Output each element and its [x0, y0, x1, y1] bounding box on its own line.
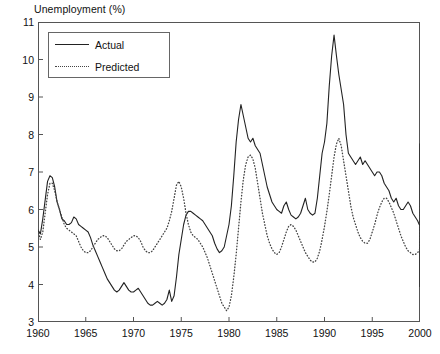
legend-label-predicted: Predicted [95, 61, 139, 73]
x-tick-label: 2000 [408, 327, 431, 339]
x-tick-label: 1975 [170, 327, 193, 339]
legend-item-actual: Actual [49, 33, 169, 56]
legend-item-predicted: Predicted [49, 55, 169, 78]
y-tick-label: 5 [28, 241, 34, 253]
y-tick-label: 4 [28, 279, 34, 291]
y-tick-label: 10 [22, 54, 34, 66]
legend-label-actual: Actual [95, 39, 124, 51]
x-tick-label: 1980 [217, 327, 240, 339]
x-tick-label: 1960 [26, 327, 49, 339]
y-tick-label: 11 [23, 16, 34, 28]
x-tick-label: 1965 [74, 327, 97, 339]
y-tick-label: 8 [28, 129, 34, 141]
x-tick-label: 1995 [361, 327, 384, 339]
y-tick-label: 7 [28, 166, 34, 178]
x-tick-label: 1990 [313, 327, 336, 339]
y-tick-label: 9 [28, 91, 34, 103]
x-tick-label: 1985 [265, 327, 288, 339]
y-axis-label: Unemployment (%) [34, 3, 125, 15]
x-tick-label: 1970 [122, 327, 145, 339]
dotted-line-icon [49, 66, 95, 67]
unemployment-chart-figure: Unemployment (%) 34567891011 19601965197… [0, 0, 440, 354]
chart-legend: Actual Predicted [48, 32, 170, 78]
y-tick-label: 6 [28, 204, 34, 216]
solid-line-icon [49, 44, 95, 45]
